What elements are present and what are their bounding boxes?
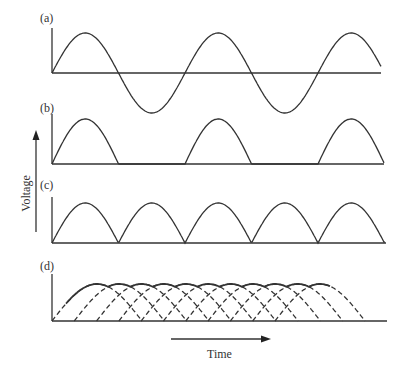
panel-c-plot — [52, 197, 386, 243]
panel-d-dashed-arc — [97, 284, 187, 321]
voltage-arrow-head-icon — [33, 130, 40, 140]
panel-a-label: (a) — [40, 11, 53, 26]
panel-d-dashed-arc — [141, 284, 231, 321]
panel-d-dashed-arc — [186, 284, 276, 321]
panel-d-dashed-arc — [208, 284, 298, 321]
panel-d-dashed-arc — [253, 284, 343, 321]
panel-d-dashed-arc — [275, 284, 365, 321]
panel-d-dashed-arc — [119, 284, 209, 321]
panel-b-label: (b) — [40, 101, 54, 116]
panel-b-plot — [52, 114, 384, 164]
panel-c-label: (c) — [40, 178, 53, 193]
panel-d-dashed-arc — [52, 284, 142, 321]
panel-d-dashed-arc — [230, 284, 320, 321]
panel-a-plot — [52, 28, 381, 113]
x-axis-label: Time — [207, 347, 232, 362]
panel-b-half-wave — [52, 119, 384, 164]
y-axis-label: Voltage — [19, 169, 34, 219]
panel-c-full-wave — [52, 203, 385, 243]
panel-d-label: (d) — [40, 259, 54, 274]
rectification-diagram — [0, 0, 404, 373]
panel-d-dashed-arc — [74, 284, 164, 321]
panel-d-dashed-arc — [164, 284, 254, 321]
panel-d-dashed-arcs — [52, 284, 365, 321]
panel-d-envelope — [66, 284, 330, 304]
time-arrow-head-icon — [261, 336, 271, 343]
panel-d-plot — [52, 274, 387, 321]
